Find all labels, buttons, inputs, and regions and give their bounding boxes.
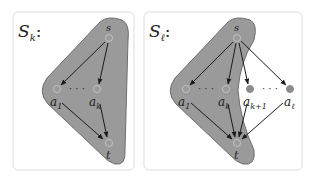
panel-left: Sk: s a1 · · · ak t	[13, 12, 134, 170]
panel-right-title: Sℓ:	[149, 21, 171, 43]
node-s	[234, 35, 241, 42]
node-al	[287, 86, 294, 93]
node-s	[106, 35, 113, 42]
diagram-canvas: Sk: s a1 · · · ak t Sℓ: s	[0, 0, 314, 180]
node-ak	[223, 86, 230, 93]
node-a1	[183, 86, 190, 93]
node-t	[234, 140, 241, 147]
node-ak	[94, 86, 101, 93]
ellipsis-right: · · ·	[262, 83, 278, 94]
ellipsis: · · ·	[69, 83, 85, 94]
panel-right: Sℓ: s a1 · · · ak ak+1 · · · aℓ t	[144, 12, 302, 170]
label-t: t	[106, 149, 111, 162]
label-t: t	[234, 149, 239, 162]
node-t	[106, 140, 113, 147]
ellipsis-left: · · ·	[198, 83, 214, 94]
node-a1	[54, 86, 61, 93]
node-ak1	[247, 86, 254, 93]
label-s: s	[234, 22, 239, 33]
label-s: s	[106, 22, 111, 33]
